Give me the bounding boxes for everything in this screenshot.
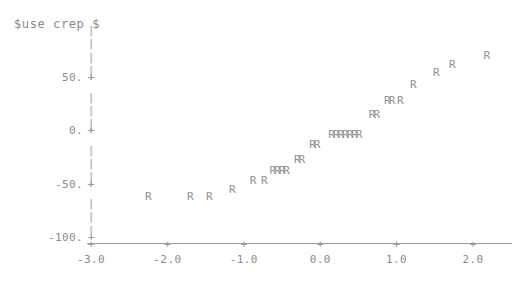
y-axis-dash: | — [88, 224, 95, 235]
data-point-marker: R — [342, 128, 349, 139]
data-point-marker: R — [410, 79, 417, 90]
y-axis-dash: | — [88, 38, 95, 49]
x-axis-rule — [87, 243, 512, 244]
x-axis-tick-mark: + — [164, 239, 171, 250]
y-axis-dash: | — [88, 51, 95, 62]
y-axis-tick-labels: 50.0.-50.-100. — [0, 0, 512, 286]
y-axis-tick-label: -100. — [48, 231, 83, 244]
data-point-marker: R — [373, 109, 380, 120]
y-axis-tick-label: 0. — [69, 124, 83, 137]
data-point-marker: R — [389, 95, 396, 106]
data-point-marker: R — [483, 49, 490, 60]
x-axis-line: ++++++ — [0, 0, 512, 286]
y-axis-dash: | — [88, 64, 95, 75]
x-axis-tick-mark: + — [470, 239, 477, 250]
y-axis-dash: | — [88, 91, 95, 102]
y-axis-tick-mark: + — [88, 232, 95, 243]
y-axis-tick-mark: + — [88, 72, 95, 83]
data-point-marker: R — [397, 95, 404, 106]
x-axis-tick-label: -3.0 — [77, 253, 105, 266]
data-point-marker: R — [294, 154, 301, 165]
data-point-marker: R — [433, 66, 440, 77]
data-point-marker: R — [356, 128, 363, 139]
x-axis-tick-label: -1.0 — [230, 253, 258, 266]
data-point-marker: R — [333, 128, 340, 139]
data-point-marker: R — [261, 175, 268, 186]
data-point-marker: R — [270, 164, 277, 175]
data-point-marker: R — [351, 128, 358, 139]
x-axis-tick-label: 1.0 — [386, 253, 407, 266]
chart-title: $use crep $ — [14, 17, 100, 31]
data-point-marker: R — [449, 59, 456, 70]
y-axis-dash: | — [88, 144, 95, 155]
scatter-plot-canvas: $use crep $ 50.0.-50.-100. ||||+|||+|||+… — [0, 0, 512, 286]
x-axis-tick-mark: + — [317, 239, 324, 250]
data-point-marker: R — [369, 109, 376, 120]
y-axis-tick-label: -50. — [55, 177, 83, 190]
x-axis-tick-labels: -3.0-2.0-1.00.01.02.0 — [0, 0, 512, 286]
data-point-marker: R — [206, 191, 213, 202]
data-point-markers: RRRRRRRRRRRRRRRRRRRRRRRRRRRRRR — [0, 0, 512, 286]
x-axis-tick-label: 2.0 — [462, 253, 483, 266]
data-point-marker: R — [250, 175, 257, 186]
y-axis-tick-mark: + — [88, 178, 95, 189]
y-axis-line: ||||+|||+|||+|||++++ — [0, 0, 512, 286]
x-axis-tick-label: -2.0 — [153, 253, 181, 266]
data-point-marker: R — [229, 184, 236, 195]
x-axis-tick-label: 0.0 — [310, 253, 331, 266]
data-point-marker: R — [328, 128, 335, 139]
data-point-marker: R — [187, 191, 194, 202]
data-point-marker: R — [283, 164, 290, 175]
y-axis-tick-mark: + — [88, 125, 95, 136]
data-point-marker: R — [145, 191, 152, 202]
x-axis-tick-mark: + — [240, 239, 247, 250]
y-axis-dash: | — [88, 171, 95, 182]
y-axis-dash: | — [88, 197, 95, 208]
data-point-marker: R — [309, 139, 316, 150]
y-axis-dash: | — [88, 118, 95, 129]
data-point-marker: R — [384, 95, 391, 106]
x-axis-tick-mark: + — [393, 239, 400, 250]
y-axis-dash: | — [88, 211, 95, 222]
data-point-marker: R — [274, 164, 281, 175]
x-axis-tick-mark: + — [88, 239, 95, 250]
y-axis-dash: | — [88, 158, 95, 169]
y-axis-tick-mark: + — [88, 178, 95, 189]
data-point-marker: R — [314, 139, 321, 150]
y-axis-tick-mark: + — [88, 125, 95, 136]
y-axis-tick-mark: + — [88, 72, 95, 83]
data-point-marker: R — [279, 164, 286, 175]
data-point-marker: R — [338, 128, 345, 139]
data-point-marker: R — [347, 128, 354, 139]
data-point-marker: R — [299, 154, 306, 165]
y-axis-dash: | — [88, 104, 95, 115]
y-axis-tick-label: 50. — [62, 71, 83, 84]
